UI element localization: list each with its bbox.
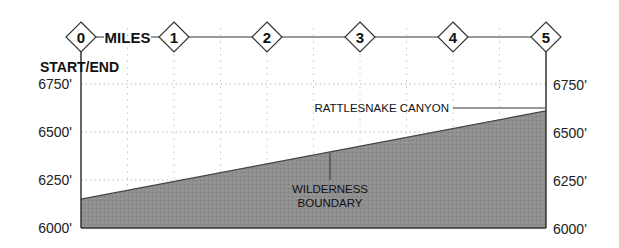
mile-marker-0: 0 [77,29,85,46]
y-tick-left: 6000' [38,220,72,236]
mile-marker-2: 2 [263,29,271,46]
miles-axis-label: MILES [105,29,151,46]
mile-marker-5: 5 [542,29,550,46]
mile-marker-1: 1 [170,29,178,46]
elevation-fill [81,111,546,228]
y-tick-right: 6750' [553,77,587,93]
y-tick-right: 6250' [553,173,587,189]
y-tick-right: 6000' [553,221,587,237]
wilderness-label-line2: BOUNDARY [298,197,363,209]
mile-marker-3: 3 [356,29,364,46]
y-tick-left: 6250' [38,172,72,188]
y-tick-left: 6500' [38,124,72,140]
elevation-profile-chart: MILES012345 6000'6000'6250'6250'6500'650… [0,0,619,248]
mile-marker-4: 4 [449,29,458,46]
y-tick-right: 6500' [553,125,587,141]
wilderness-label-line1: WILDERNESS [292,183,368,195]
y-tick-left: 6750' [38,76,72,92]
elevation-area [81,111,546,228]
rattlesnake-canyon-label: RATTLESNAKE CANYON [314,102,449,114]
start-end-label: START/END [40,59,119,75]
